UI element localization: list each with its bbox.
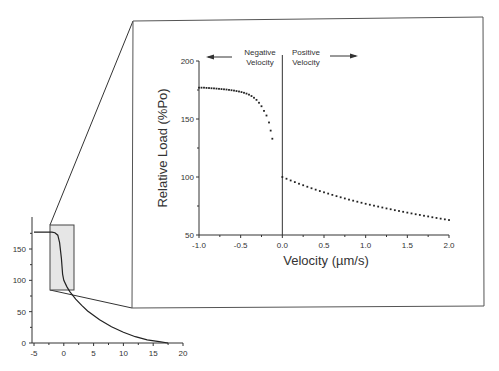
- data-point: [419, 214, 421, 216]
- data-point: [201, 87, 203, 89]
- data-point: [281, 176, 283, 178]
- data-point: [398, 210, 400, 212]
- data-point: [246, 93, 248, 95]
- data-point: [319, 190, 321, 192]
- data-point: [444, 218, 446, 220]
- zoom-connector-bottom: [50, 290, 132, 308]
- data-point: [198, 87, 200, 89]
- y-tick-label: 100: [181, 173, 195, 182]
- y-tick-label: 150: [181, 115, 195, 124]
- x-axis-title: Velocity (µm/s): [283, 253, 369, 268]
- data-point: [369, 204, 371, 206]
- inset-x-tick-label: 10: [119, 349, 128, 358]
- negative-velocity-label-2: Velocity: [246, 58, 274, 67]
- data-point: [206, 87, 208, 89]
- figure: -1.0-0.50.00.51.01.52.050100150200 Relat…: [0, 0, 499, 371]
- data-point: [208, 87, 210, 89]
- data-point: [381, 207, 383, 209]
- data-point: [271, 138, 273, 140]
- inset-y-tick-label: 50: [17, 308, 26, 317]
- data-point: [377, 206, 379, 208]
- inset-x-tick-label: 0: [62, 349, 67, 358]
- data-point: [344, 198, 346, 200]
- data-point: [294, 181, 296, 183]
- data-point: [415, 213, 417, 215]
- data-point: [440, 218, 442, 220]
- positive-velocity-label-1: Positive: [292, 48, 321, 57]
- data-point: [311, 187, 313, 189]
- data-point: [270, 130, 272, 132]
- inset-y-tick-label: 100: [13, 276, 27, 285]
- data-point: [221, 88, 223, 90]
- data-point: [211, 87, 213, 89]
- y-axis-title: Relative Load (%Po): [155, 88, 170, 207]
- data-point: [223, 88, 225, 90]
- data-point: [411, 213, 413, 215]
- x-tick-label: 0.5: [318, 241, 330, 250]
- data-point: [431, 216, 433, 218]
- x-tick-label: 0.0: [277, 241, 289, 250]
- data-point: [261, 105, 263, 107]
- data-point: [203, 87, 205, 89]
- data-point: [394, 209, 396, 211]
- data-point: [406, 212, 408, 214]
- data-point: [238, 91, 240, 93]
- data-point: [448, 219, 450, 221]
- data-point: [348, 199, 350, 201]
- data-point: [216, 88, 218, 90]
- data-point: [340, 196, 342, 198]
- data-point: [402, 211, 404, 213]
- data-point: [356, 201, 358, 203]
- data-point: [253, 97, 255, 99]
- data-point: [306, 186, 308, 188]
- data-point: [256, 99, 258, 101]
- data-point: [248, 94, 250, 96]
- data-point: [331, 194, 333, 196]
- inset-highlight-region: [50, 225, 74, 290]
- data-point: [258, 102, 260, 104]
- data-point: [361, 202, 363, 204]
- data-point: [386, 208, 388, 210]
- negative-velocity-label-1: Negative: [244, 48, 276, 57]
- data-point: [251, 95, 253, 97]
- inset-x-tick-label: 15: [149, 349, 158, 358]
- data-point: [236, 90, 238, 92]
- inset-x-tick-label: -5: [30, 349, 38, 358]
- data-point: [213, 87, 215, 89]
- inset-x-tick-label: 20: [179, 349, 188, 358]
- data-point: [302, 184, 304, 186]
- data-point: [427, 216, 429, 218]
- data-point: [243, 92, 245, 94]
- data-point: [390, 208, 392, 210]
- inset-x-tick-label: 5: [91, 349, 96, 358]
- caption-fragment: [40, 362, 460, 368]
- data-point: [286, 178, 288, 180]
- data-point: [315, 189, 317, 191]
- y-tick-label: 50: [185, 231, 194, 240]
- data-point: [365, 203, 367, 205]
- data-point: [231, 89, 233, 91]
- data-point: [241, 91, 243, 93]
- data-point: [436, 217, 438, 219]
- x-tick-label: -1.0: [192, 241, 206, 250]
- inset-y-tick-label: 150: [13, 245, 27, 254]
- data-point: [352, 200, 354, 202]
- x-tick-label: 1.0: [360, 241, 372, 250]
- x-tick-label: -0.5: [234, 241, 248, 250]
- data-point: [323, 191, 325, 193]
- inset-y-tick-label: 0: [22, 339, 27, 348]
- data-point: [336, 195, 338, 197]
- data-point: [373, 205, 375, 207]
- data-point: [290, 180, 292, 182]
- data-point: [266, 115, 268, 117]
- data-point: [218, 88, 220, 90]
- x-tick-label: 1.5: [402, 241, 414, 250]
- y-tick-label: 200: [181, 57, 195, 66]
- data-point: [228, 89, 230, 91]
- data-point: [298, 183, 300, 185]
- positive-velocity-label-2: Velocity: [292, 58, 320, 67]
- figure-canvas: -1.0-0.50.00.51.01.52.050100150200 Relat…: [0, 0, 499, 371]
- data-point: [226, 89, 228, 91]
- data-point: [268, 122, 270, 124]
- data-point: [423, 215, 425, 217]
